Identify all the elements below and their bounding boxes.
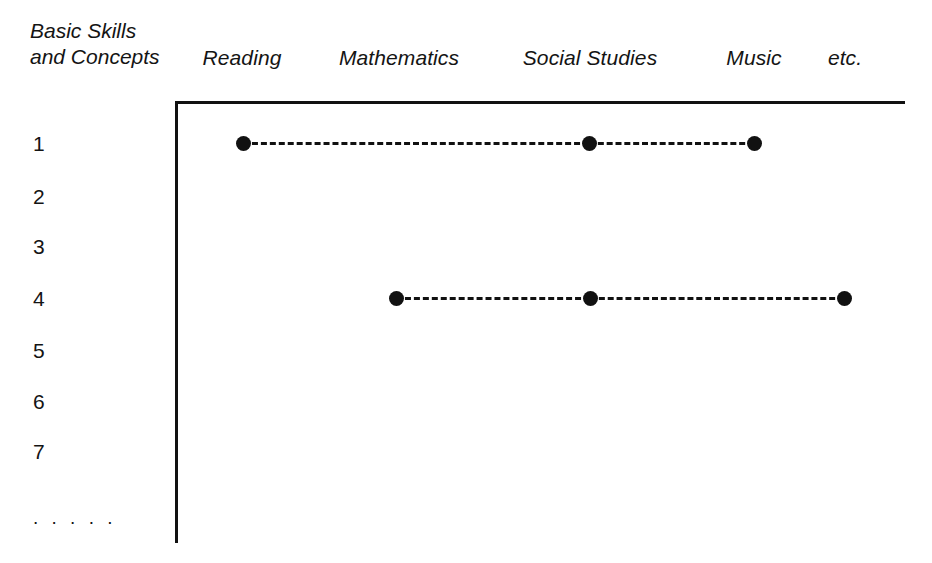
data-point-music-row-1[interactable] [747, 136, 762, 151]
row-label-7: 7 [33, 441, 45, 462]
axis-left-rule [175, 101, 178, 543]
corner-header-basic-skills-and-concepts: Basic Skills and Concepts [30, 18, 160, 70]
column-header-music: Music [726, 45, 781, 71]
data-point-mathematics-row-4[interactable] [389, 291, 404, 306]
column-header-reading: Reading [203, 45, 282, 71]
data-point-etc-row-4[interactable] [837, 291, 852, 306]
row-label-5: 5 [33, 340, 45, 361]
series-row-4-segment-b [590, 297, 844, 300]
column-header-mathematics: Mathematics [339, 45, 459, 71]
row-label-3: 3 [33, 236, 45, 257]
series-row-1-segment-a [243, 142, 589, 145]
diagram-canvas: Basic Skills and Concepts Reading Mathem… [0, 0, 932, 563]
row-label-4: 4 [33, 288, 45, 309]
row-label-ellipsis: . . . . . [33, 507, 117, 528]
row-label-1: 1 [33, 133, 45, 154]
row-label-6: 6 [33, 391, 45, 412]
series-row-4-segment-a [396, 297, 590, 300]
axis-top-rule [175, 101, 905, 104]
series-row-1-segment-b [589, 142, 754, 145]
column-header-social-studies: Social Studies [523, 45, 657, 71]
data-point-social-studies-row-4[interactable] [583, 291, 598, 306]
data-point-social-studies-row-1[interactable] [582, 136, 597, 151]
data-point-reading-row-1[interactable] [236, 136, 251, 151]
row-label-2: 2 [33, 186, 45, 207]
column-header-etc: etc. [828, 45, 862, 71]
